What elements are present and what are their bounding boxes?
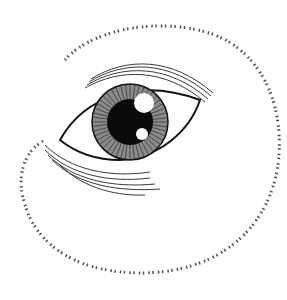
highlight-large	[134, 93, 154, 113]
eye-drawing	[0, 0, 287, 300]
highlight-small	[136, 128, 148, 140]
